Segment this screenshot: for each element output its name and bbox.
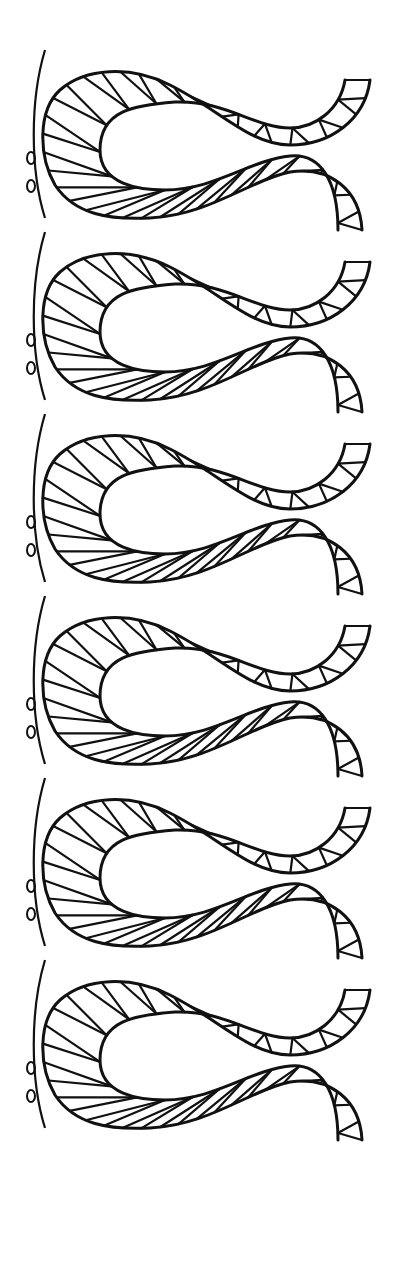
lace-motif bbox=[27, 596, 370, 776]
lace-repeats bbox=[27, 50, 370, 1140]
lace-motif bbox=[27, 232, 370, 412]
lace-pattern-drawing bbox=[0, 0, 396, 1287]
lace-motif bbox=[27, 414, 370, 594]
lace-motif bbox=[27, 960, 370, 1140]
lace-motif bbox=[27, 50, 370, 230]
lace-motif bbox=[27, 778, 370, 958]
